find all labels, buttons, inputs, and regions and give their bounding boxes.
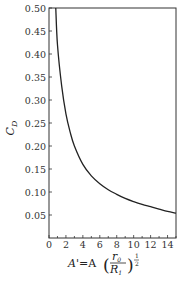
svg-text:A'=A: A'=A xyxy=(67,257,97,270)
x-tick-label: 14 xyxy=(161,239,173,248)
y-tick-label: 0.10 xyxy=(25,187,46,198)
svg-text:R1: R1 xyxy=(109,263,122,276)
svg-text:(: ( xyxy=(103,255,110,275)
x-tick-label: 6 xyxy=(97,239,103,248)
x-axis-label: A'=A ( r0 R1 ) 1 2 xyxy=(60,248,181,278)
x-axis-ticks: 02468101214 xyxy=(46,235,176,248)
x-tick-label: 0 xyxy=(46,239,52,248)
y-tick-label: 0.40 xyxy=(25,49,46,60)
svg-text:1: 1 xyxy=(135,252,139,259)
y-tick-label: 0.25 xyxy=(25,118,46,129)
y-tick-label: 0.05 xyxy=(25,210,46,221)
y-tick-label: 0.20 xyxy=(25,141,46,152)
x-tick-label: 8 xyxy=(114,239,120,248)
x-tick-label: 4 xyxy=(80,239,86,248)
y-tick-label: 0.15 xyxy=(25,164,46,175)
x-tick-label: 10 xyxy=(128,239,140,248)
y-axis-label: CD xyxy=(4,120,19,135)
y-tick-label: 0.30 xyxy=(25,95,46,106)
svg-text:2: 2 xyxy=(135,260,139,267)
y-axis-ticks: 0.050.100.150.200.250.300.350.400.450.50 xyxy=(25,3,52,221)
svg-text:): ) xyxy=(127,255,134,275)
svg-text:r0: r0 xyxy=(112,250,121,263)
cd-curve xyxy=(56,8,176,213)
y-tick-label: 0.35 xyxy=(25,72,46,83)
y-tick-label: 0.50 xyxy=(25,3,46,14)
drag-coefficient-chart: 0.050.100.150.200.250.300.350.400.450.50… xyxy=(0,0,181,248)
y-tick-label: 0.45 xyxy=(25,26,46,37)
x-tick-label: 12 xyxy=(145,239,157,248)
x-tick-label: 2 xyxy=(63,239,69,248)
